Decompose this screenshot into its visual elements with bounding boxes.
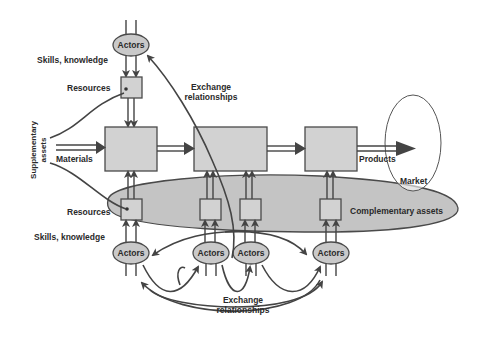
svg-text:Actors: Actors [238, 248, 265, 258]
supplementary-assets-label: Supplementary assets [29, 121, 48, 179]
exchange-relationships-top-label-1: Exchange [191, 82, 231, 92]
resources-bottom-box-1 [121, 199, 142, 220]
exchange-relationships-top-label-2: relationships [185, 92, 238, 102]
value-chain-diagram: Actors [0, 0, 482, 342]
svg-text:Supplementary: Supplementary [29, 121, 38, 179]
skills-knowledge-top-label: Skills, knowledge [37, 55, 108, 65]
resources-bottom-box-3 [240, 199, 261, 220]
resources-top-box [121, 77, 142, 98]
svg-text:Actors: Actors [118, 40, 145, 50]
exchange-relationships-bottom-label-2: relationships [217, 305, 270, 315]
bottom-actor-lines [126, 264, 336, 276]
resources-bottom-box-2 [200, 199, 221, 220]
skills-knowledge-bottom-label: Skills, knowledge [34, 232, 105, 242]
svg-text:Actors: Actors [198, 248, 225, 258]
products-label: Products [359, 154, 396, 164]
actors-bottom-2: Actors [193, 242, 229, 264]
market-label: Market [400, 176, 428, 186]
process-box-2 [194, 127, 267, 171]
actors-bottom-3: Actors [233, 242, 269, 264]
materials-arrow [56, 141, 106, 154]
svg-text:assets: assets [39, 137, 48, 162]
complementary-assets-label: Complementary assets [350, 206, 443, 216]
actors-top: Actors [113, 34, 149, 56]
resources-bottom-box-4 [320, 199, 341, 220]
exchange-relationships-bottom-label-1: Exchange [223, 295, 263, 305]
process-box-1 [105, 127, 157, 171]
resources-bottom-label: Resources [67, 207, 111, 217]
actors-bottom-4: Actors [313, 242, 349, 264]
actors-bottom-1: Actors [113, 242, 149, 264]
process-box-3 [305, 127, 357, 171]
svg-text:Actors: Actors [118, 248, 145, 258]
svg-text:Actors: Actors [318, 248, 345, 258]
resources-top-label: Resources [67, 83, 111, 93]
materials-label: Materials [56, 154, 93, 164]
